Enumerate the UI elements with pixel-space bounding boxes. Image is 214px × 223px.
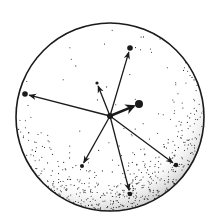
sphere-vector-diagram — [0, 0, 214, 223]
endpoint-dot-to-upper-left-short — [95, 81, 98, 84]
endpoint-dot-to-right-short-bold — [135, 100, 143, 108]
endpoint-dot-to-bottom-left — [80, 164, 84, 168]
sphere-diagram — [0, 0, 214, 223]
endpoint-dot-to-top — [127, 45, 133, 51]
endpoint-dot-to-right-bottom — [174, 163, 179, 168]
endpoint-dot-to-bottom — [128, 192, 133, 197]
endpoint-dot-to-left — [22, 91, 28, 97]
center-point — [107, 113, 113, 119]
